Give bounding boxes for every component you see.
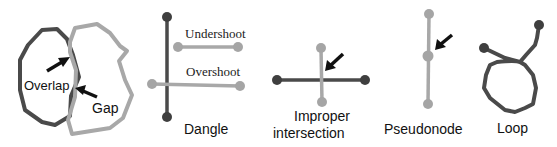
overlap-arrow-icon	[47, 57, 70, 71]
pseudonode-panel: Pseudonode	[384, 9, 463, 137]
gap-arrow-icon	[75, 85, 97, 97]
dangle-title: Dangle	[184, 121, 229, 137]
node-icon	[235, 81, 245, 91]
pseudonode-title: Pseudonode	[384, 121, 463, 137]
node-icon	[479, 43, 489, 53]
node-icon	[360, 75, 370, 85]
pseudonode-icon	[423, 51, 434, 62]
overlap-label: Overlap	[24, 78, 70, 93]
node-icon	[317, 97, 327, 107]
pseudonode-arrow-icon	[435, 35, 452, 50]
node-icon	[316, 43, 326, 53]
node-icon	[173, 42, 183, 52]
node-icon	[424, 9, 434, 19]
topology-errors-diagram: Overlap Gap Undershoot Overshoot Dangle	[0, 0, 557, 147]
improper-title-line1: Improper	[294, 108, 350, 124]
loop-title: Loop	[497, 120, 528, 136]
improper-intersection-panel: Improper intersection	[272, 43, 370, 141]
overlap-gap-panel: Overlap Gap	[20, 24, 132, 134]
overshoot-line	[152, 84, 240, 86]
loop-panel: Loop	[479, 20, 544, 136]
gap-label: Gap	[92, 100, 119, 116]
intersection-arrow-icon	[325, 54, 343, 71]
light-polygon	[68, 24, 132, 134]
dangle-panel: Undershoot Overshoot Dangle	[147, 12, 246, 137]
undershoot-label: Undershoot	[185, 26, 246, 41]
node-icon	[423, 99, 433, 109]
node-icon	[272, 75, 282, 85]
node-icon	[147, 79, 157, 89]
node-icon	[162, 12, 172, 22]
node-icon	[233, 42, 243, 52]
improper-title-line2: intersection	[273, 125, 345, 141]
node-icon	[534, 20, 544, 30]
overshoot-label: Overshoot	[186, 64, 241, 79]
vertical-line	[321, 48, 322, 102]
node-icon	[162, 112, 172, 122]
loop-line	[484, 25, 539, 112]
